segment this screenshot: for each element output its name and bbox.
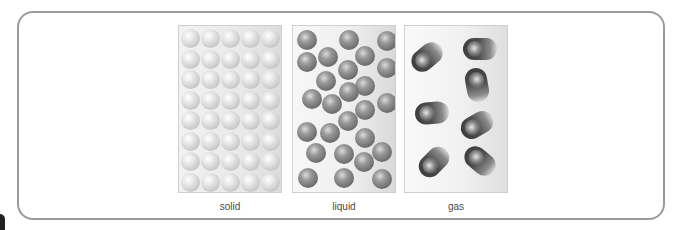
liquid-particle bbox=[377, 31, 396, 51]
liquid-particle bbox=[372, 142, 392, 162]
solid-particle bbox=[221, 111, 240, 130]
liquid-particle bbox=[306, 143, 326, 163]
solid-panel bbox=[178, 25, 282, 193]
liquid-particle bbox=[334, 168, 354, 188]
gas-particle bbox=[463, 38, 497, 60]
liquid-particle bbox=[298, 168, 318, 188]
solid-particle bbox=[221, 50, 240, 69]
solid-particle bbox=[261, 29, 280, 48]
liquid-particle bbox=[377, 58, 396, 78]
solid-particle bbox=[241, 70, 260, 89]
corner-mark bbox=[0, 214, 5, 230]
solid-particle bbox=[181, 111, 200, 130]
solid-particle bbox=[201, 111, 220, 130]
liquid-particle bbox=[355, 100, 375, 120]
solid-particle bbox=[221, 91, 240, 110]
solid-particle bbox=[241, 29, 260, 48]
liquid-particle bbox=[320, 123, 340, 143]
solid-particle bbox=[201, 152, 220, 171]
gas-particle bbox=[414, 142, 454, 182]
solid-particle bbox=[241, 50, 260, 69]
solid-particle bbox=[181, 173, 200, 192]
solid-particle bbox=[201, 91, 220, 110]
solid-particle bbox=[261, 111, 280, 130]
solid-particle bbox=[201, 132, 220, 151]
gas-particle bbox=[463, 66, 491, 103]
gas-particle bbox=[460, 142, 500, 181]
solid-particle bbox=[201, 70, 220, 89]
solid-particle bbox=[201, 173, 220, 192]
liquid-particle bbox=[297, 30, 317, 50]
solid-particle bbox=[221, 152, 240, 171]
liquid-particle bbox=[316, 71, 336, 91]
solid-particle bbox=[241, 91, 260, 110]
liquid-particle bbox=[354, 152, 374, 172]
solid-particle bbox=[201, 29, 220, 48]
liquid-particle bbox=[338, 111, 358, 131]
gas-particle bbox=[414, 101, 450, 126]
liquid-particle bbox=[297, 122, 317, 142]
liquid-particle bbox=[318, 47, 338, 67]
solid-particle bbox=[241, 132, 260, 151]
solid-particle bbox=[261, 70, 280, 89]
solid-label: solid bbox=[178, 201, 282, 212]
liquid-particle bbox=[339, 82, 359, 102]
solid-particle bbox=[261, 152, 280, 171]
solid-particle bbox=[181, 91, 200, 110]
solid-particle bbox=[261, 173, 280, 192]
gas-particle bbox=[407, 38, 447, 77]
liquid-particle bbox=[338, 60, 358, 80]
liquid-label: liquid bbox=[292, 201, 396, 212]
solid-particle bbox=[221, 173, 240, 192]
liquid-particle bbox=[355, 128, 375, 148]
liquid-particle bbox=[302, 89, 322, 109]
solid-particle bbox=[241, 152, 260, 171]
gas-label: gas bbox=[404, 201, 508, 212]
solid-particle bbox=[181, 132, 200, 151]
solid-particle bbox=[181, 29, 200, 48]
solid-particle bbox=[261, 132, 280, 151]
solid-particle bbox=[181, 70, 200, 89]
solid-particle bbox=[181, 50, 200, 69]
liquid-particle bbox=[322, 94, 342, 114]
solid-particle bbox=[261, 91, 280, 110]
gas-panel bbox=[404, 25, 508, 193]
solid-particle bbox=[201, 50, 220, 69]
liquid-particle bbox=[355, 46, 375, 66]
solid-particle bbox=[241, 173, 260, 192]
solid-particle bbox=[221, 29, 240, 48]
liquid-particle bbox=[339, 30, 359, 50]
solid-particle bbox=[221, 132, 240, 151]
solid-particle bbox=[241, 111, 260, 130]
liquid-particle bbox=[297, 52, 317, 72]
solid-particle bbox=[181, 152, 200, 171]
liquid-particle bbox=[372, 169, 392, 189]
gas-particle bbox=[457, 107, 497, 143]
liquid-particle bbox=[377, 93, 396, 113]
solid-particle bbox=[221, 70, 240, 89]
liquid-particle bbox=[334, 144, 354, 164]
solid-particle bbox=[261, 50, 280, 69]
liquid-panel bbox=[292, 25, 396, 193]
